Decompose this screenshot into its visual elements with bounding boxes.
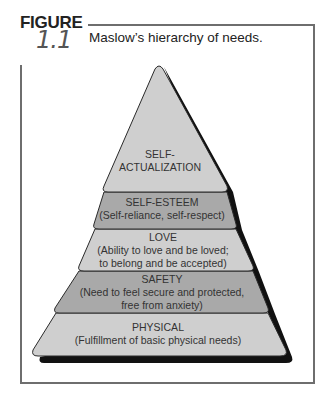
tier-love-desc2: to belong and be accepted) [99, 257, 226, 269]
tier-self-actualization-title2: ACTUALIZATION [119, 161, 201, 173]
tier-safety-desc2: free from anxiety) [121, 299, 203, 311]
tier-self-actualization-title: SELF- [145, 148, 175, 160]
tier-physical-desc: (Fulfillment of basic physical needs) [75, 334, 241, 346]
tier-love-desc: (Ability to love and be loved; [97, 244, 228, 256]
tier-safety-desc: (Need to feel secure and protected, [80, 286, 245, 298]
tier-love-title: LOVE [149, 231, 177, 243]
tier-self-esteem-title: SELF-ESTEEM [126, 196, 199, 208]
tier-physical-title: PHYSICAL [132, 321, 184, 333]
tier-self-actualization [103, 66, 227, 192]
tier-safety-title: SAFETY [142, 273, 183, 285]
tier-self-esteem-desc: (Self-reliance, self-respect) [99, 209, 224, 221]
maslow-pyramid-diagram: SELF- ACTUALIZATION SELF-ESTEEM (Self-re… [0, 0, 331, 401]
